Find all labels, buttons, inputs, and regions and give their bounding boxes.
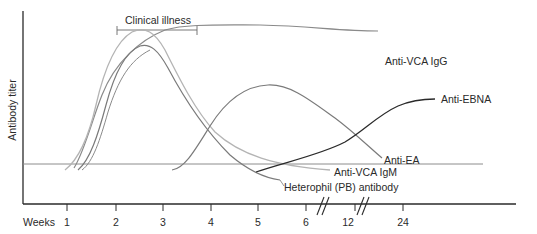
axis-break-2 [357,197,369,215]
curve-anti-ea [172,85,382,170]
clinical-illness-label: Clinical illness [125,14,191,26]
x-axis-label: Weeks [23,216,55,228]
x-tick-label: 24 [397,216,409,228]
label-anti-ea: Anti-EA [384,154,420,166]
curve-anti-vca-igm [65,30,330,170]
x-tick-label: 5 [255,216,261,228]
x-tick-label: 6 [303,216,309,228]
x-tick-label: 2 [113,216,119,228]
axis-break-1 [317,197,329,215]
x-tick-label: 12 [342,216,354,228]
curve-early-companion [82,50,150,170]
y-axis-label: Antibody titer [6,79,18,141]
label-heterophil: Heterophil (PB) antibody [284,181,399,193]
label-anti-ebna: Anti-EBNA [441,93,491,105]
x-tick-label: 3 [160,216,166,228]
clinical-illness-bracket: Clinical illness [117,14,197,35]
curve-anti-vca-igg [74,25,378,168]
label-anti-vca-igm: Anti-VCA IgM [334,166,397,178]
x-tick-label: 1 [64,216,70,228]
x-ticks [67,204,403,211]
x-tick-label: 4 [208,216,214,228]
label-anti-vca-igg: Anti-VCA IgG [385,55,447,67]
antibody-titer-chart: Antibody titer Clinical illness Anti-VCA… [0,0,537,234]
